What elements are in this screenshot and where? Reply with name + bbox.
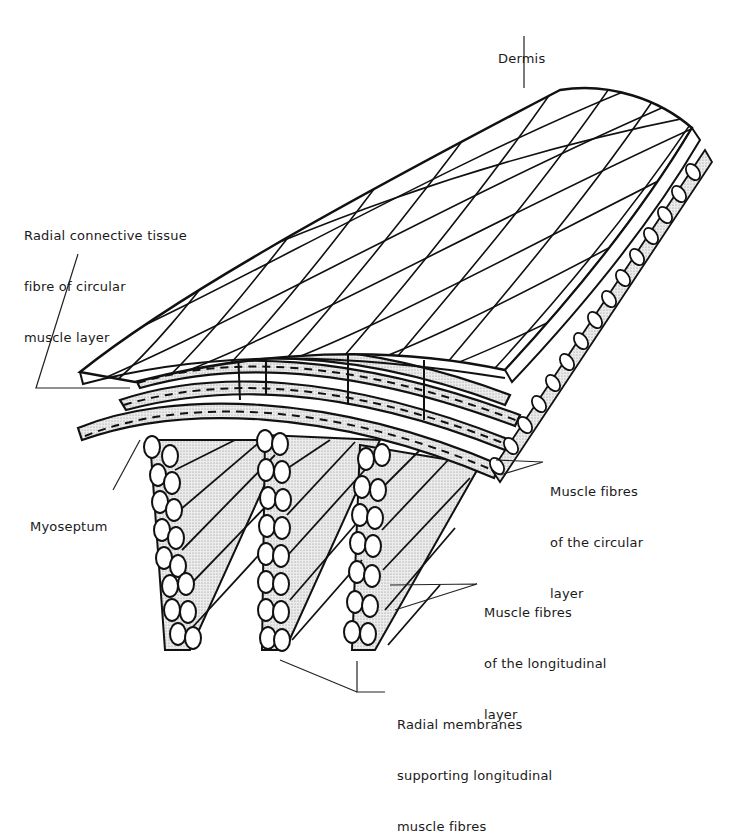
longitudinal-muscle-layer	[150, 435, 480, 650]
label-radial-connective-tissue: Radial connective tissue fibre of circul…	[24, 193, 187, 363]
label-dermis: Dermis	[498, 16, 545, 84]
label-myoseptum: Myoseptum	[30, 484, 108, 552]
label-radial-membranes: Radial membranes supporting longitudinal…	[397, 682, 552, 835]
